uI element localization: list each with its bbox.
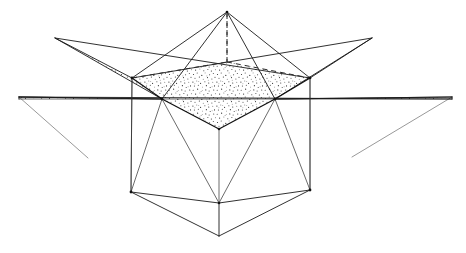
vertex-rim-back-right — [309, 77, 312, 80]
side-edge-front-right-diag — [275, 99, 310, 190]
drop-line-right — [352, 97, 452, 157]
base-edges — [131, 190, 310, 236]
base-left-to-center — [131, 192, 219, 203]
vertex-base-left — [130, 191, 133, 194]
vertex-base-center — [218, 202, 221, 205]
shaded-regions — [19, 38, 452, 129]
vertex-apex-top — [226, 11, 229, 14]
upper-back-stipple-region — [132, 62, 310, 129]
star-polyhedron-diagram — [0, 0, 466, 253]
antiprism-side-edges-segment-0 — [131, 78, 132, 192]
figure-canvas — [0, 0, 466, 253]
vertex-rim-front-center — [218, 128, 221, 131]
vertex-rim-front-right — [274, 98, 277, 101]
drop-line-left — [19, 97, 88, 158]
vertex-rim-front-left — [161, 98, 164, 101]
base-left-to-apex — [131, 192, 219, 236]
side-edge-front-left-diag — [131, 99, 162, 192]
vertex-rim-back-left — [131, 77, 134, 80]
vertex-base-right — [309, 189, 312, 192]
